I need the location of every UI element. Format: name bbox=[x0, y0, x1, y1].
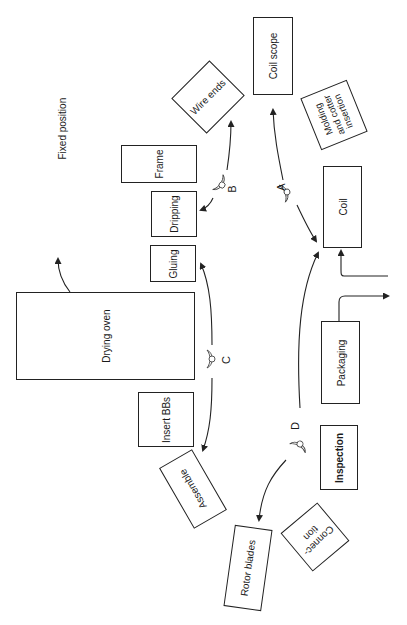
station-drying-oven: Drying oven bbox=[16, 292, 195, 380]
worker-d-icon bbox=[290, 437, 310, 453]
worker-b-label: B bbox=[226, 185, 238, 192]
arrow-c-to-assemble bbox=[203, 378, 212, 450]
arrow-packaging-output bbox=[339, 296, 388, 321]
station-coil-scope: Coil scope bbox=[253, 17, 293, 95]
station-label: Drying oven bbox=[100, 309, 111, 362]
worker-c-label: C bbox=[220, 356, 232, 364]
station-label: Coil bbox=[337, 198, 348, 215]
station-label: Frame bbox=[154, 150, 165, 179]
fixed-position-label: Fixed position bbox=[57, 90, 68, 160]
arrow-c-to-gluing bbox=[201, 264, 212, 345]
station-label: Assemble bbox=[177, 467, 208, 511]
station-label: Dripping bbox=[169, 195, 180, 232]
arrow-fixed-position bbox=[58, 259, 70, 292]
station-insert-bbs: Insert BBs bbox=[138, 392, 194, 447]
worker-c-icon bbox=[207, 350, 215, 368]
station-label: Connec- tion bbox=[294, 516, 336, 558]
station-label: Wire ends bbox=[188, 77, 228, 117]
worker-d-label: D bbox=[289, 422, 301, 430]
station-label: Rotor blades bbox=[239, 539, 258, 597]
station-label: Packaging bbox=[335, 339, 346, 386]
arrow-a-to-coil-scope bbox=[273, 110, 283, 180]
station-gluing: Gluing bbox=[150, 245, 196, 282]
station-inspection: Inspection bbox=[320, 425, 358, 490]
station-dripping: Dripping bbox=[151, 191, 197, 237]
station-label: Inspection bbox=[334, 432, 345, 482]
station-label: Insert BBs bbox=[161, 396, 172, 442]
worker-a-label: A bbox=[275, 183, 287, 190]
arrow-d-to-rotor-blades bbox=[259, 460, 286, 520]
arrow-a-to-coil bbox=[297, 205, 316, 241]
arrow-b-to-wire-ends bbox=[227, 122, 231, 170]
station-label: Gluing bbox=[168, 249, 179, 278]
station-packaging: Packaging bbox=[321, 321, 360, 404]
arrow-b-to-dripping bbox=[201, 198, 213, 210]
process-layout-diagram: A B C D Fixed position Wire ends Coil sc… bbox=[0, 0, 407, 625]
arrow-to-coil-from-below bbox=[299, 253, 318, 408]
worker-icons bbox=[207, 175, 309, 453]
station-label: Molding and cotter insertion bbox=[311, 90, 356, 141]
station-frame: Frame bbox=[121, 145, 197, 183]
station-coil: Coil bbox=[323, 166, 362, 248]
station-label: Coil scope bbox=[268, 33, 279, 80]
arrow-input-to-coil bbox=[341, 251, 388, 276]
